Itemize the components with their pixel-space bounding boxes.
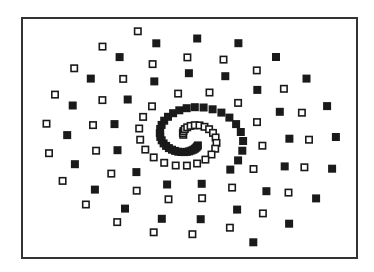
hollow-square-marker <box>161 160 167 166</box>
filled-square-marker <box>234 39 242 47</box>
hollow-square-marker <box>299 110 305 116</box>
hollow-square-marker <box>199 195 205 201</box>
hollow-square-marker <box>220 56 226 62</box>
hollow-square-marker <box>254 67 260 73</box>
hollow-square-marker <box>137 137 143 143</box>
filled-square-marker <box>332 133 340 141</box>
filled-square-marker <box>124 96 132 104</box>
hollow-square-marker <box>229 184 235 190</box>
filled-square-marker <box>111 120 119 128</box>
filled-square-marker <box>239 137 247 145</box>
filled-square-marker <box>191 103 199 111</box>
filled-square-marker <box>158 215 166 223</box>
hollow-square-marker <box>120 76 126 82</box>
filled-square-marker <box>217 109 225 117</box>
filled-square-marker <box>197 215 205 223</box>
filled-square-marker <box>91 186 99 194</box>
filled-square-marker <box>232 120 240 128</box>
filled-square-marker <box>276 108 284 116</box>
filled-square-marker <box>285 220 293 228</box>
filled-square-marker <box>238 147 246 155</box>
filled-square-marker <box>163 181 171 189</box>
filled-square-marker <box>116 53 124 61</box>
hollow-square-marker <box>301 164 307 170</box>
hollow-square-marker <box>136 125 142 131</box>
hollow-square-marker <box>52 91 58 97</box>
hollow-square-marker <box>306 137 312 143</box>
filled-square-marker <box>183 104 191 112</box>
filled-square-marker <box>150 77 158 85</box>
filled-square-marker <box>87 75 95 83</box>
filled-square-marker <box>209 105 217 113</box>
hollow-square-marker <box>151 229 157 235</box>
hollow-square-marker <box>206 89 212 95</box>
hollow-square-marker <box>189 231 195 237</box>
hollow-square-marker <box>135 28 141 34</box>
filled-square-marker <box>63 131 71 139</box>
hollow-square-marker <box>140 114 146 120</box>
hollow-square-marker <box>149 103 155 109</box>
hollow-square-marker <box>281 86 287 92</box>
hollow-square-series <box>43 28 312 237</box>
hollow-square-marker <box>83 201 89 207</box>
filled-square-marker <box>253 86 261 94</box>
filled-square-marker <box>237 128 245 136</box>
hollow-square-marker <box>108 170 114 176</box>
hollow-square-marker <box>194 160 200 166</box>
hollow-square-marker <box>250 166 256 172</box>
hollow-square-marker <box>151 154 157 160</box>
filled-square-marker <box>303 75 311 83</box>
filled-square-marker <box>69 102 77 110</box>
filled-square-marker <box>312 194 320 202</box>
filled-square-marker <box>226 166 234 174</box>
filled-square-marker <box>328 165 336 173</box>
hollow-square-marker <box>134 188 140 194</box>
filled-square-marker <box>323 102 331 110</box>
filled-square-marker <box>175 106 183 114</box>
filled-square-marker <box>221 72 229 80</box>
hollow-square-marker <box>227 225 233 231</box>
filled-square-marker <box>193 35 201 43</box>
hollow-square-marker <box>235 100 241 106</box>
hollow-square-marker <box>142 146 148 152</box>
filled-square-marker <box>132 168 140 176</box>
hollow-square-marker <box>165 196 171 202</box>
filled-square-marker <box>200 104 208 112</box>
filled-square-marker <box>114 146 122 154</box>
hollow-square-marker <box>184 54 190 60</box>
filled-square-marker <box>233 206 241 214</box>
hollow-square-marker <box>114 219 120 225</box>
filled-square-series <box>63 35 340 247</box>
filled-square-marker <box>262 187 270 195</box>
filled-square-marker <box>234 156 242 164</box>
hollow-square-marker <box>259 143 265 149</box>
hollow-square-marker <box>175 90 181 96</box>
hollow-square-marker <box>46 150 52 156</box>
hollow-square-marker <box>99 97 105 103</box>
hollow-square-marker <box>149 61 155 67</box>
hollow-square-marker <box>71 65 77 71</box>
filled-square-marker <box>249 238 257 246</box>
filled-square-marker <box>281 162 289 170</box>
hollow-square-marker <box>93 148 99 154</box>
hollow-square-marker <box>285 189 291 195</box>
spiral-plot <box>0 0 374 272</box>
hollow-square-marker <box>173 162 179 168</box>
hollow-square-marker <box>90 122 96 128</box>
hollow-square-marker <box>59 178 65 184</box>
hollow-square-marker <box>202 156 208 162</box>
hollow-square-marker <box>43 121 49 127</box>
hollow-square-marker <box>254 119 260 125</box>
filled-square-marker <box>198 180 206 188</box>
filled-square-marker <box>285 135 293 143</box>
hollow-square-marker <box>184 162 190 168</box>
filled-square-marker <box>121 205 129 213</box>
filled-square-marker <box>152 39 160 47</box>
filled-square-marker <box>272 53 280 61</box>
filled-square-marker <box>71 160 79 168</box>
hollow-square-marker <box>260 210 266 216</box>
hollow-square-marker <box>99 43 105 49</box>
filled-square-marker <box>185 69 193 77</box>
